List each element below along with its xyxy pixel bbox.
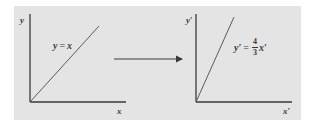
left-x-axis-label: x [117, 107, 122, 116]
line-y-prime-equals-four-thirds-x-prime [196, 17, 234, 102]
left-equation: y = x [53, 41, 72, 51]
right-equation-lhs: y′ [234, 43, 241, 53]
right-equation-fraction: 4 3 [252, 38, 258, 57]
line-y-equals-x [30, 26, 99, 102]
left-equation-rhs: x [67, 41, 72, 51]
right-y-axis-label: y′ [186, 16, 193, 25]
right-x-axis-label: x′ [283, 107, 290, 116]
left-graph [30, 14, 126, 102]
fraction-denominator: 3 [253, 49, 257, 57]
left-y-axis-label: y [20, 16, 24, 25]
transformation-diagram [0, 0, 312, 127]
left-equation-lhs: y [53, 41, 57, 51]
right-equation: y′ = 4 3 x′ [234, 38, 267, 57]
right-equation-rhs: x′ [259, 43, 267, 53]
right-equation-operator: = [243, 43, 249, 53]
right-graph [196, 14, 292, 102]
left-equation-operator: = [59, 41, 65, 51]
fraction-numerator: 4 [253, 38, 257, 46]
